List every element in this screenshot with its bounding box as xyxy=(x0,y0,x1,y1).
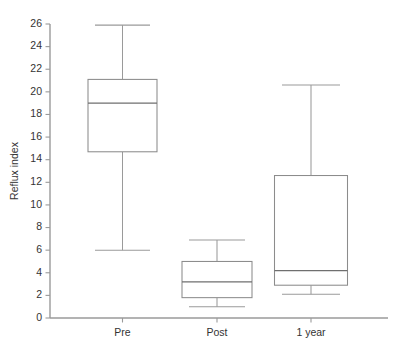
y-axis-tick-label: 14 xyxy=(30,152,42,164)
y-axis-tick-label: 20 xyxy=(30,85,42,97)
box-iqr-rect xyxy=(182,261,252,297)
y-axis-tick-label: 16 xyxy=(30,130,42,142)
y-axis-tick-label: 6 xyxy=(36,243,42,255)
y-axis-tick-label: 4 xyxy=(36,266,42,278)
y-axis-tick-label: 10 xyxy=(30,198,42,210)
y-axis-tick-label: 18 xyxy=(30,107,42,119)
y-axis-tick-label: 2 xyxy=(36,288,42,300)
y-axis-tick-label: 26 xyxy=(30,17,42,29)
y-axis-title: Reflux index xyxy=(8,141,20,200)
chart-canvas: 02468101214161820222426 PrePost1 year Re… xyxy=(0,0,403,349)
box-iqr-rect xyxy=(275,176,348,286)
boxplot-chart: 02468101214161820222426 PrePost1 year Re… xyxy=(0,0,403,349)
box-iqr-rect xyxy=(88,79,157,151)
y-axis-tick-label: 0 xyxy=(36,311,42,323)
x-axis-tick-label: 1 year xyxy=(296,326,326,338)
x-axis-tick-label: Post xyxy=(206,326,227,338)
y-axis-tick-label: 22 xyxy=(30,62,42,74)
x-axis-tick-label: Pre xyxy=(114,326,131,338)
y-axis-tick-label: 12 xyxy=(30,175,42,187)
y-axis-tick-label: 24 xyxy=(30,39,42,51)
y-axis-tick-label: 8 xyxy=(36,220,42,232)
